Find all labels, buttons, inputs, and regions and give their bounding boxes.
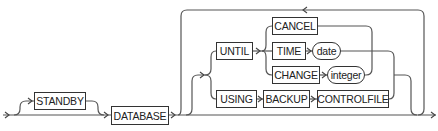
change-keyword: CHANGE [272, 66, 320, 84]
using-keyword: USING [216, 90, 257, 108]
database-keyword: DATABASE [111, 106, 169, 125]
cancel-keyword: CANCEL [272, 17, 318, 35]
integer-variable: integer [327, 66, 365, 84]
time-keyword: TIME [272, 42, 306, 60]
railroad-lines [0, 0, 438, 131]
controlfile-keyword: CONTROLFILE [317, 90, 389, 108]
until-keyword: UNTIL [216, 42, 253, 60]
standby-keyword: STANDBY [34, 92, 86, 110]
backup-keyword: BACKUP [263, 90, 310, 108]
date-variable: date [312, 42, 341, 60]
